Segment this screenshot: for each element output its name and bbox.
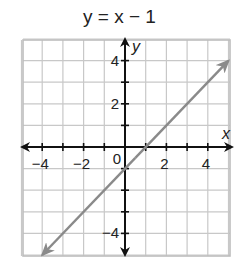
line-y-equals-x-minus-1-upper xyxy=(135,61,228,158)
x-tick-label: 2 xyxy=(160,155,168,172)
x-tick-label: −4 xyxy=(32,155,49,172)
x-axis-label: x xyxy=(221,125,231,142)
y-axis-label: y xyxy=(131,38,141,55)
line-y-equals-x-minus-1-lower xyxy=(42,158,135,255)
x-tick-label: 4 xyxy=(202,155,210,172)
x-tick-label: −2 xyxy=(73,155,90,172)
y-tick-label: 4 xyxy=(111,52,119,69)
y-tick-label: −4 xyxy=(102,224,119,241)
x-tick-label: 0 xyxy=(113,150,121,167)
coordinate-plane: −4−202442−4xy xyxy=(0,0,239,274)
y-tick-label: 2 xyxy=(111,95,119,112)
